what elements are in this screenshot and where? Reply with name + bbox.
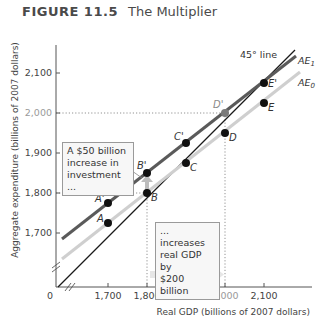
svg-text:1,900: 1,900 [25,147,52,158]
svg-text:E': E' [268,78,277,89]
svg-text:2,100: 2,100 [250,290,277,301]
y-tick-labels: 2,100 2,000 1,900 1,800 1,700 [25,67,52,238]
svg-text:C': C' [174,131,184,142]
svg-text:B: B [151,192,158,203]
svg-text:2,100: 2,100 [25,67,52,78]
svg-text:1,700: 1,700 [94,290,121,301]
ae1-label: AE1 [297,55,315,68]
svg-text:C: C [190,162,197,173]
forty-five-line-label: 45° line [240,49,277,60]
svg-text:0: 0 [47,290,53,301]
svg-text:D': D' [213,99,223,110]
x-axis-title: Real GDP (billions of 2007 dollars) [157,307,310,317]
y-axis-title: Aggregate expenditure (billions of 2007 … [10,42,20,258]
svg-text:B': B' [137,160,147,171]
svg-text:1,800: 1,800 [25,187,52,198]
svg-text:A: A [96,213,104,224]
gdp-callout: ... increases real GDP by $200 billion [155,222,220,300]
investment-callout: A $50 billion increase in investment ... [62,142,134,196]
ae0-label: AE0 [297,77,316,90]
svg-text:E: E [268,102,275,113]
svg-text:1,700: 1,700 [25,227,52,238]
svg-text:D: D [229,132,237,143]
svg-text:2,000: 2,000 [25,107,52,118]
